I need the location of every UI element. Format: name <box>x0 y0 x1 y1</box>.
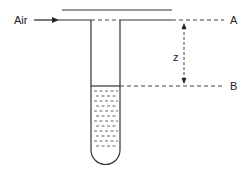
z-dimension-arrow-icon <box>182 23 187 84</box>
level-b-label: B <box>230 80 237 92</box>
air-arrow-icon <box>34 17 59 23</box>
liquid <box>92 86 119 163</box>
diagram-canvas: Air z A B <box>0 0 252 174</box>
level-a-label: A <box>230 14 238 26</box>
z-label: z <box>173 51 179 63</box>
air-label: Air <box>14 14 28 26</box>
